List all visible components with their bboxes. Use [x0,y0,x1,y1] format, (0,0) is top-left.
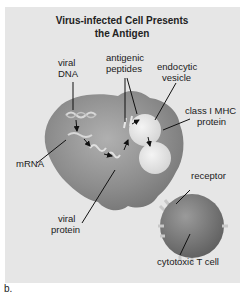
label-tcell: cytotoxic T cell [157,256,219,267]
label-viral-dna-2: DNA [58,68,78,79]
label-mrna: mRNA [16,158,44,169]
label-endocytic-1: endocytic [157,61,197,72]
cell-diagram [0,0,244,299]
label-viral-protein-1: viral [58,213,75,224]
vesicle-lower [139,142,171,174]
label-mhc-1: class I MHC [185,105,236,116]
cytotoxic-t-cell [160,194,224,258]
label-antigenic-2: peptides [106,63,142,74]
label-receptor: receptor [191,170,226,181]
label-antigenic-1: antigenic [106,52,144,63]
figure-caption: b. [4,283,12,294]
label-mhc-2: protein [197,116,226,127]
label-viral-protein-2: protein [51,224,80,235]
label-viral-dna-1: viral [58,57,75,68]
label-endocytic-2: vesicle [162,72,191,83]
